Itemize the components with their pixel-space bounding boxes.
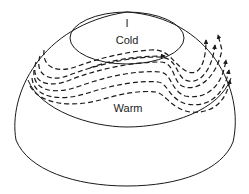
warm-label: Warm xyxy=(114,102,143,114)
cold-label: Cold xyxy=(116,34,139,46)
pole-marker: I xyxy=(125,17,128,29)
hemisphere-diagram xyxy=(0,0,249,194)
flow-arrows xyxy=(30,35,230,112)
